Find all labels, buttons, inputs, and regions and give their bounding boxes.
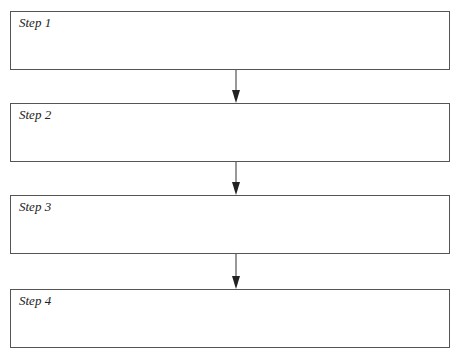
arrow-down-icon — [231, 254, 241, 289]
arrow-down-icon — [231, 70, 241, 103]
step-label: Step 3 — [19, 199, 51, 215]
step-label: Step 4 — [19, 293, 51, 309]
step-label: Step 1 — [19, 15, 51, 31]
step-box-4: Step 4 — [10, 289, 450, 348]
step-box-2: Step 2 — [10, 103, 450, 162]
step-label: Step 2 — [19, 107, 51, 123]
step-box-3: Step 3 — [10, 195, 450, 254]
step-box-1: Step 1 — [10, 11, 450, 70]
arrow-down-icon — [231, 162, 241, 195]
